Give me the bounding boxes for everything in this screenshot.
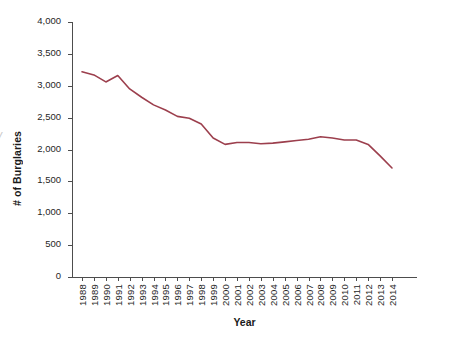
x-tick-label: 2000 bbox=[220, 284, 231, 306]
x-tick-label: 2003 bbox=[256, 284, 267, 306]
x-tick bbox=[344, 277, 345, 281]
x-tick-label: 2004 bbox=[268, 284, 279, 306]
y-tick-label: 3,500 bbox=[37, 47, 61, 58]
x-tick-label: 2001 bbox=[232, 284, 243, 306]
x-tick bbox=[309, 277, 310, 281]
y-tick-label: 2,500 bbox=[37, 111, 61, 122]
x-tick-label: 2005 bbox=[280, 284, 291, 306]
y-tick-label: 3,000 bbox=[37, 79, 61, 90]
x-tick bbox=[165, 277, 166, 281]
series-burglaries-line bbox=[72, 22, 417, 277]
x-tick-label: 1995 bbox=[160, 284, 171, 306]
x-tick bbox=[320, 277, 321, 281]
x-tick bbox=[356, 277, 357, 281]
x-axis-title: Year bbox=[72, 316, 417, 328]
x-tick bbox=[249, 277, 250, 281]
x-tick bbox=[285, 277, 286, 281]
x-tick bbox=[94, 277, 95, 281]
x-tick bbox=[130, 277, 131, 281]
x-tick bbox=[368, 277, 369, 281]
x-tick-label: 2006 bbox=[292, 284, 303, 306]
x-axis-line bbox=[72, 277, 417, 278]
x-tick bbox=[118, 277, 119, 281]
x-tick bbox=[392, 277, 393, 281]
cropped-edge-glyph: / bbox=[0, 126, 8, 148]
burglaries-line-chart: / # of Burglaries 05001,0001,5002,0002,5… bbox=[0, 0, 450, 339]
x-tick bbox=[273, 277, 274, 281]
x-tick bbox=[106, 277, 107, 281]
y-tick-label: 1,500 bbox=[37, 174, 61, 185]
x-tick bbox=[261, 277, 262, 281]
x-tick-label: 1991 bbox=[113, 284, 124, 306]
x-tick-label: 1996 bbox=[172, 284, 183, 306]
x-tick-label: 2009 bbox=[327, 284, 338, 306]
x-tick-label: 2010 bbox=[339, 284, 350, 306]
y-tick-label: 500 bbox=[45, 238, 61, 249]
y-tick-label: 2,000 bbox=[37, 143, 61, 154]
x-tick bbox=[225, 277, 226, 281]
x-tick bbox=[177, 277, 178, 281]
x-tick bbox=[380, 277, 381, 281]
x-tick-label: 1994 bbox=[149, 284, 160, 306]
x-tick bbox=[332, 277, 333, 281]
x-tick-label: 2012 bbox=[363, 284, 374, 306]
x-tick-label: 1999 bbox=[208, 284, 219, 306]
y-tick-label: 4,000 bbox=[37, 15, 61, 26]
x-tick-label: 1997 bbox=[184, 284, 195, 306]
x-tick-label: 2007 bbox=[304, 284, 315, 306]
x-tick-label: 2013 bbox=[375, 284, 386, 306]
y-tick: 0 bbox=[68, 277, 72, 278]
x-tick bbox=[297, 277, 298, 281]
x-tick-label: 2014 bbox=[387, 284, 398, 306]
x-tick bbox=[189, 277, 190, 281]
x-tick bbox=[142, 277, 143, 281]
x-tick-label: 1993 bbox=[137, 284, 148, 306]
y-tick-label: 0 bbox=[56, 270, 61, 281]
y-axis-title: # of Burglaries bbox=[8, 108, 26, 228]
x-tick-label: 2011 bbox=[351, 284, 362, 305]
x-tick bbox=[82, 277, 83, 281]
y-tick-label: 1,000 bbox=[37, 206, 61, 217]
x-tick-label: 1990 bbox=[101, 284, 112, 306]
x-tick-label: 2002 bbox=[244, 284, 255, 306]
x-tick-label: 1992 bbox=[125, 284, 136, 306]
x-tick-label: 1988 bbox=[77, 284, 88, 306]
x-tick bbox=[154, 277, 155, 281]
x-tick bbox=[201, 277, 202, 281]
x-tick-label: 1998 bbox=[196, 284, 207, 306]
x-tick bbox=[237, 277, 238, 281]
x-tick-label: 1989 bbox=[89, 284, 100, 306]
plot-area: 05001,0001,5002,0002,5003,0003,5004,000 … bbox=[72, 22, 417, 277]
x-tick-label: 2008 bbox=[315, 284, 326, 306]
x-tick bbox=[213, 277, 214, 281]
